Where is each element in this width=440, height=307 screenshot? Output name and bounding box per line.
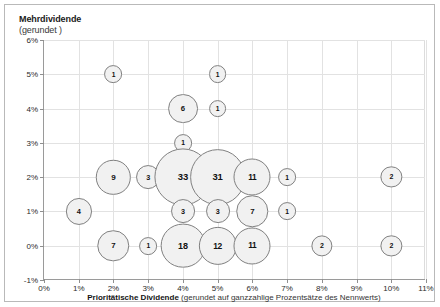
- x-axis-tick: [357, 279, 358, 283]
- x-axis-title: Prioritätische Dividende (gerundet auf g…: [43, 293, 425, 302]
- y-axis-tick-label: 5%: [26, 70, 38, 79]
- x-axis-tick: [287, 279, 288, 283]
- y-axis-tick: [40, 40, 44, 41]
- bubble-data-point: 9: [96, 160, 130, 194]
- x-axis-tick: [426, 279, 427, 283]
- y-axis-tick-label: -1%: [24, 276, 38, 285]
- y-axis-tick: [40, 280, 44, 281]
- bubble-data-point: 2: [381, 167, 402, 188]
- x-axis-tick-label: 8%: [316, 284, 328, 293]
- plot-area: 0%1%2%3%4%5%6%7%8%9%10%11%6%5%4%3%2%1%0%…: [43, 40, 425, 280]
- y-axis-title-sub: (gerundet ): [19, 25, 219, 36]
- bubble-data-point: 6: [168, 94, 198, 124]
- y-axis-tick-label: 1%: [26, 207, 38, 216]
- y-axis-tick-label: 4%: [26, 104, 38, 113]
- x-axis-tick: [148, 279, 149, 283]
- bubble-data-point: 11: [234, 227, 271, 264]
- y-axis-tick-label: 0%: [26, 241, 38, 250]
- gridline-vertical: [357, 40, 358, 279]
- y-axis-tick: [40, 109, 44, 110]
- y-axis-title: Mehrdividende (gerundet ): [19, 14, 219, 36]
- y-axis-tick-label: 3%: [26, 138, 38, 147]
- bubble-data-point: 7: [98, 230, 129, 261]
- y-axis-tick: [40, 177, 44, 178]
- bubble-data-point: 1: [105, 65, 123, 83]
- y-axis-tick: [40, 211, 44, 212]
- bubble-data-point: 2: [381, 235, 402, 256]
- x-axis-tick-label: 6%: [247, 284, 259, 293]
- gridline-horizontal: [44, 40, 425, 41]
- bubble-data-point: 11: [234, 159, 271, 196]
- gridline-horizontal: [44, 143, 425, 144]
- x-axis-tick: [252, 279, 253, 283]
- bubble-data-point: 1: [139, 237, 157, 255]
- bubble-data-point: 3: [171, 199, 195, 223]
- gridline-vertical: [426, 40, 427, 279]
- y-axis-tick-label: 2%: [26, 173, 38, 182]
- x-axis-tick-label: 9%: [351, 284, 363, 293]
- bubble-data-point: 3: [206, 199, 230, 223]
- figure-frame: Mehrdividende (gerundet ) 0%1%2%3%4%5%6%…: [4, 4, 435, 302]
- bubble-data-point: 12: [199, 227, 237, 265]
- bubble-data-point: 7: [237, 196, 268, 227]
- bubble-data-point: 1: [209, 100, 227, 118]
- y-axis-title-main: Mehrdividende: [19, 14, 219, 25]
- chart-screenshot: Mehrdividende (gerundet ) 0%1%2%3%4%5%6%…: [0, 0, 440, 307]
- x-axis-tick-label: 3%: [142, 284, 154, 293]
- gridline-vertical: [79, 40, 80, 279]
- bubble-data-point: 1: [278, 168, 296, 186]
- bubble-data-point: 2: [311, 235, 332, 256]
- y-axis-tick: [40, 74, 44, 75]
- x-axis-title-main: Prioritätische Dividende: [87, 293, 179, 302]
- x-axis-tick-label: 4%: [177, 284, 189, 293]
- gridline-horizontal: [44, 211, 425, 212]
- x-axis-tick: [113, 279, 114, 283]
- bubble-data-point: 1: [209, 65, 227, 83]
- bubble-data-point: 4: [66, 198, 92, 224]
- x-axis-tick-label: 5%: [212, 284, 224, 293]
- y-axis-tick: [40, 246, 44, 247]
- x-axis-tick: [218, 279, 219, 283]
- y-axis-tick: [40, 143, 44, 144]
- x-axis-tick: [183, 279, 184, 283]
- x-axis-tick-label: 10%: [383, 284, 399, 293]
- x-axis-tick: [391, 279, 392, 283]
- gridline-horizontal: [44, 109, 425, 110]
- x-axis-tick: [322, 279, 323, 283]
- x-axis-tick-label: 2%: [108, 284, 120, 293]
- x-axis-tick-label: 7%: [281, 284, 293, 293]
- x-axis-tick-label: 1%: [73, 284, 85, 293]
- y-axis-tick-label: 6%: [26, 36, 38, 45]
- gridline-horizontal: [44, 74, 425, 75]
- bubble-data-point: 1: [278, 203, 296, 221]
- x-axis-tick-label: 0%: [38, 284, 50, 293]
- gridline-vertical: [287, 40, 288, 279]
- x-axis-title-sub: (gerundet auf ganzzahlige Prozentsätze d…: [179, 293, 381, 302]
- x-axis-tick-label: 11%: [418, 284, 433, 293]
- plot-right-edge: [424, 40, 425, 279]
- x-axis-tick: [79, 279, 80, 283]
- x-axis-tick: [44, 279, 45, 283]
